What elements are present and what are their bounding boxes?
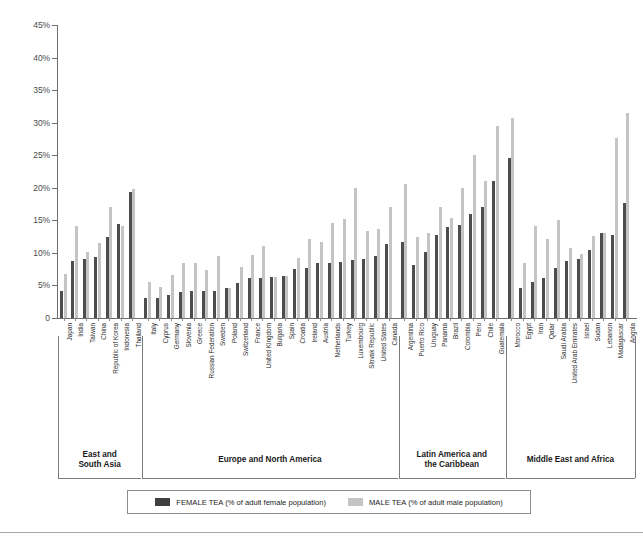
- x-axis-country-label: Egypt: [525, 323, 532, 339]
- bar-male: [75, 226, 78, 318]
- bar-male: [615, 138, 618, 318]
- bar-group: [144, 25, 155, 318]
- x-axis-tick-mark: [285, 318, 286, 321]
- x-axis-country-label: Slovenia: [185, 323, 192, 348]
- x-axis-tick-mark: [320, 318, 321, 321]
- x-axis-country-label: China: [100, 323, 107, 340]
- x-axis-country-label: Croatia: [299, 323, 306, 344]
- bar-group: [71, 25, 82, 318]
- bar-male: [205, 270, 208, 318]
- x-axis-country-label: Uruguay: [430, 323, 437, 347]
- bar-male: [354, 188, 357, 318]
- x-axis-tick-mark: [626, 318, 627, 321]
- bar-group: [305, 25, 316, 318]
- x-axis-country-label: Germany: [173, 323, 180, 349]
- x-axis-tick-mark: [523, 318, 524, 321]
- bar-male: [366, 231, 369, 318]
- y-axis-tick-label: 15%: [0, 215, 57, 225]
- bar-male: [603, 233, 606, 318]
- x-axis-country-label: Spain: [288, 323, 295, 339]
- bar-male: [182, 263, 185, 318]
- bar-group: [94, 25, 105, 318]
- x-axis-country-label: Netherlands: [334, 323, 341, 357]
- x-axis-tick-mark: [148, 318, 149, 321]
- x-axis-country-label: Lebanon: [606, 323, 613, 348]
- x-axis-country-label: Madagascar: [617, 323, 624, 358]
- x-axis-country-label: Canada: [391, 323, 398, 345]
- bar-group: [542, 25, 553, 318]
- x-axis-country-label: Peru: [475, 323, 482, 337]
- y-axis-tick-label: 0: [0, 313, 57, 323]
- x-axis-country-label: Luxembourg: [357, 323, 364, 359]
- x-axis-country-label: Switzerland: [242, 323, 249, 356]
- y-axis-tick-label: 35%: [0, 85, 57, 95]
- chart-legend: FEMALE TEA (% of adult female population…: [127, 490, 531, 514]
- x-axis-country-label: Slovak Republic: [368, 323, 375, 369]
- x-axis-tick-mark: [297, 318, 298, 321]
- x-axis-tick-mark: [171, 318, 172, 321]
- bar-group: [492, 25, 503, 318]
- x-axis-tick-mark: [217, 318, 218, 321]
- x-axis-tick-mark: [377, 318, 378, 321]
- bar-male: [484, 181, 487, 318]
- bar-group: [519, 25, 530, 318]
- bar-male: [297, 258, 300, 318]
- bar-group: [129, 25, 140, 318]
- bar-male: [64, 274, 67, 318]
- x-axis-tick-mark: [484, 318, 485, 321]
- x-axis-tick-mark: [534, 318, 535, 321]
- y-axis-tick-mark: [52, 318, 57, 319]
- bar-group: [554, 25, 565, 318]
- legend-swatch-female-icon: [155, 498, 170, 506]
- x-axis-tick-mark: [308, 318, 309, 321]
- bar-male: [439, 207, 442, 318]
- x-axis-tick-mark: [580, 318, 581, 321]
- bar-group: [611, 25, 622, 318]
- x-axis-tick-mark: [354, 318, 355, 321]
- x-axis-tick-mark: [262, 318, 263, 321]
- x-axis-tick-mark: [461, 318, 462, 321]
- region-label-line: the Caribbean: [399, 460, 505, 470]
- bar-male: [569, 248, 572, 318]
- y-axis-tick-label: 10%: [0, 248, 57, 258]
- x-axis-country-label: Argentina: [407, 323, 414, 350]
- bar-male: [496, 126, 499, 318]
- x-axis-tick-mark: [86, 318, 87, 321]
- region-baseline: [142, 478, 397, 479]
- bar-male: [109, 207, 112, 318]
- region-label-line: Middle East and Africa: [506, 455, 635, 465]
- region-label: Latin America andthe Caribbean: [399, 450, 505, 470]
- bar-group: [236, 25, 247, 318]
- bar-group: [565, 25, 576, 318]
- bar-group: [117, 25, 128, 318]
- x-axis-tick-mark: [496, 318, 497, 321]
- bar-group: [600, 25, 611, 318]
- region-label-line: Latin America and: [399, 450, 505, 460]
- y-axis-tick-label: 5%: [0, 280, 57, 290]
- x-axis-country-label: Italy: [150, 323, 157, 335]
- region-label-line: East and: [58, 450, 141, 460]
- x-axis-country-label: Sudan: [594, 323, 601, 341]
- x-axis-country-label: United Arab Emirates: [571, 323, 578, 383]
- bar-male: [592, 236, 595, 318]
- y-axis-tick-label: 30%: [0, 118, 57, 128]
- x-axis-country-label: Turkey: [345, 323, 352, 342]
- x-axis-country-label: Russian Federation: [208, 323, 215, 378]
- bar-group: [577, 25, 588, 318]
- x-axis-country-label: United States: [380, 323, 387, 361]
- bar-male: [331, 223, 334, 318]
- x-axis-country-label: Japan: [66, 323, 73, 340]
- x-axis-tick-mark: [416, 318, 417, 321]
- y-axis-tick-label: 45%: [0, 20, 57, 30]
- bar-group: [213, 25, 224, 318]
- x-axis-tick-mark: [450, 318, 451, 321]
- bar-group: [458, 25, 469, 318]
- bar-male: [171, 275, 174, 318]
- x-axis-country-label: Thailand: [135, 323, 142, 348]
- bar-group: [106, 25, 117, 318]
- x-axis-tick-mark: [121, 318, 122, 321]
- x-axis-country-label: Panama: [441, 323, 448, 347]
- x-axis-country-label: Bulgaria: [276, 323, 283, 346]
- bar-group: [202, 25, 213, 318]
- bar-male: [320, 242, 323, 318]
